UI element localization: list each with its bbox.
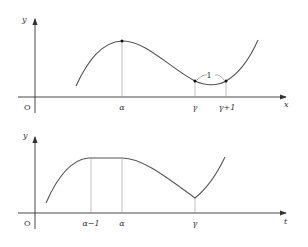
diagram-canvas: 1 y O α γ γ+1 x y O α−1 α γ t [0,0,308,247]
bottom-y-label: y [22,131,28,140]
tick-alpha-bottom: α [119,219,125,228]
bottom-curve [46,157,225,203]
tick-gamma-bottom: γ [193,219,198,228]
top-x-label: x [284,100,289,109]
max-point [121,40,124,43]
tick-gamma: γ [193,103,198,112]
point-gamma [194,80,197,83]
bottom-graph: y O α−1 α γ t [18,131,288,229]
bottom-x-label: t [284,217,288,226]
interval-label: 1 [206,71,211,80]
tick-gamma-plus-1: γ+1 [219,103,236,112]
top-y-label: y [21,15,27,24]
tick-alpha-minus-1: α−1 [82,219,99,228]
top-curve [76,40,258,86]
point-gamma-plus-1 [225,80,228,83]
top-graph: 1 y O α γ γ+1 x [18,15,289,113]
tick-alpha: α [119,103,125,112]
bottom-origin-label: O [24,219,31,228]
top-origin-label: O [24,103,31,112]
